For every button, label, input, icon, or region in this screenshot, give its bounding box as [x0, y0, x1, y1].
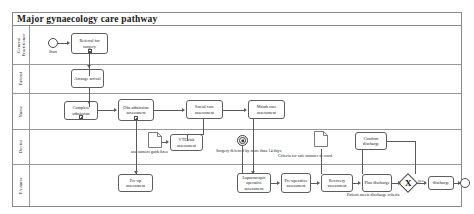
- task-label-discharge: discharge: [433, 180, 449, 185]
- lane-body-doctor: assessment guidelines VTE risk assessmen…: [30, 130, 461, 164]
- subprocess-marker-icon: [134, 116, 138, 120]
- flow-arrow-obs-to-social: [182, 108, 185, 112]
- flow-social-to-vte: [203, 119, 204, 134]
- lane-label-pa-nurse: PA nurse: [18, 177, 23, 194]
- task-label-confirm-discharge: Confirm discharge: [357, 136, 385, 146]
- annotation-surgery-deferred: Surgery deferred by more than 14 days: [216, 149, 281, 154]
- task-label-pre-op-assessment: Pre-op assessment: [120, 178, 151, 188]
- document-icon: [148, 132, 162, 148]
- task-label-social-care-assessment: Social care assessment: [188, 104, 221, 114]
- task-plan-discharge[interactable]: Plan discharge: [362, 174, 392, 192]
- flow-confirm-down: [415, 141, 416, 174]
- timer-event[interactable]: [237, 135, 248, 146]
- flow-arrow-obs-to-preop: [134, 171, 138, 174]
- flow-social-to-vte-h: [187, 134, 204, 135]
- flow-timer-down: [242, 146, 243, 174]
- lane-nurse: Nurse Complete admission Obs admission a…: [13, 94, 461, 130]
- subprocess-marker-icon: [88, 49, 92, 53]
- task-label-pre-operative-assessment: Pre-operative assessment: [283, 178, 309, 188]
- flow-arrow-recovery-to-plan: [358, 181, 361, 185]
- lane-body-patient: Arrange arrival: [30, 65, 461, 93]
- lane-header-patient: Patient: [13, 65, 30, 93]
- diagram-canvas: Major gynaecology care pathway GeneralPr…: [0, 0, 474, 214]
- lane-header-nurse: Nurse: [13, 94, 30, 129]
- lane-header-doctor: Doctor: [13, 130, 30, 164]
- document-label-criteria-safe-transfer: Criteria for safe transfer to ward: [278, 154, 332, 159]
- lane-general-practitioner: GeneralPractitioner Start Referral for s…: [13, 26, 461, 65]
- lane-label-doctor: Doctor: [18, 140, 23, 153]
- flow-start-to-referral: [58, 43, 67, 44]
- flow-arrow-plan-to-gateway: [398, 181, 401, 185]
- lane-label-general-practitioner: GeneralPractitioner: [16, 34, 27, 57]
- flow-arrow-referral-to-arrange: [87, 65, 91, 68]
- flow-arrow-start-to-referral: [67, 41, 70, 45]
- lane-pa-nurse: PA nurse Pre-op assessment Laparoscopic …: [13, 165, 461, 206]
- document-icon: [314, 131, 328, 147]
- lane-body-nurse: Complete admission Obs admission assessm…: [30, 94, 461, 129]
- lane-header-pa-nurse: PA nurse: [13, 165, 30, 206]
- process-pool: Major gynaecology care pathway GeneralPr…: [12, 12, 462, 207]
- document-assessment-guidelines[interactable]: [148, 132, 162, 148]
- task-label-mouth-care-assessment: Mouth care assessment: [250, 104, 283, 114]
- task-label-laparoscopic-operative-assessment: Laparoscopic operative assessment: [239, 175, 269, 190]
- flow-mouth-to-lap: [253, 119, 254, 174]
- subprocess-marker-icon: [79, 115, 83, 119]
- flow-obs-to-preop: [136, 121, 137, 174]
- flow-arrow-gateway-to-discharge: [424, 181, 427, 185]
- task-label-referral-for-surgery: Referral for surgery: [73, 38, 106, 48]
- task-confirm-discharge[interactable]: Confirm discharge: [355, 132, 387, 150]
- flow-arrow-arrange-to-complete: [87, 101, 91, 104]
- document-criteria-safe-transfer[interactable]: [314, 131, 328, 147]
- flow-doc-criteria-down: [321, 149, 322, 174]
- page-title: Major gynaecology care pathway: [13, 13, 461, 26]
- lane-patient: Patient Arrange arrival: [13, 65, 461, 94]
- flow-arrow-social-to-mouth: [244, 108, 247, 112]
- lane-body-general-practitioner: Start Referral for surgery: [30, 26, 461, 64]
- task-arrange-arrival[interactable]: Arrange arrival: [71, 69, 104, 88]
- flow-arrow-mouth-to-lap: [251, 171, 255, 174]
- task-label-plan-discharge: Plan discharge: [364, 180, 389, 185]
- task-pre-operative-assessment[interactable]: Pre-operative assessment: [281, 173, 311, 193]
- flow-obs-to-social: [154, 110, 182, 111]
- flow-arrange-to-complete: [89, 88, 90, 107]
- task-mouth-care-assessment[interactable]: Mouth care assessment: [248, 100, 285, 119]
- task-laparoscopic-operative-assessment[interactable]: Laparoscopic operative assessment: [237, 173, 271, 193]
- flow-social-to-mouth: [223, 110, 244, 111]
- task-label-arrange-arrival: Arrange arrival: [74, 76, 100, 81]
- lane-header-general-practitioner: GeneralPractitioner: [13, 26, 30, 64]
- flow-arrow-doc-to-vte: [166, 140, 169, 144]
- end-event[interactable]: [460, 178, 470, 188]
- lane-body-pa-nurse: Pre-op assessment Laparoscopic operative…: [30, 165, 461, 206]
- lane-label-patient: Patient: [18, 72, 23, 85]
- gateway-annotation: Patient meets discharge criteria: [347, 193, 399, 198]
- flow-arrow-lap-to-preop: [277, 181, 280, 185]
- flow-arrow-discharge-to-end: [458, 181, 461, 185]
- task-social-care-assessment[interactable]: Social care assessment: [186, 100, 223, 119]
- task-label-recovery-assessment: Recovery assessment: [323, 178, 351, 188]
- flow-vte-up: [187, 134, 188, 141]
- start-event[interactable]: [48, 38, 58, 48]
- gateway-x-icon: X: [405, 179, 412, 188]
- lane-doctor: Doctor assessment guidelines VTE risk as…: [13, 130, 461, 165]
- start-event-label: Start: [43, 50, 63, 55]
- flow-arrow-preop-to-recovery: [317, 181, 320, 185]
- task-recovery-assessment[interactable]: Recovery assessment: [321, 174, 353, 192]
- task-pre-op-assessment[interactable]: Pre-op assessment: [118, 174, 153, 192]
- flow-confirm-out: [387, 141, 415, 142]
- task-obs-admission-assessment[interactable]: Obs admission assessment: [118, 99, 154, 121]
- flow-gateway-to-discharge: [416, 183, 424, 184]
- flow-arrow-complete-to-obs: [114, 108, 117, 112]
- lane-label-nurse: Nurse: [18, 106, 23, 117]
- flow-gateway-up: [362, 149, 363, 174]
- task-label-obs-admission-assessment: Obs admission assessment: [120, 105, 152, 115]
- task-referral-for-surgery[interactable]: Referral for surgery: [71, 33, 108, 54]
- task-complete-admission[interactable]: Complete admission: [64, 101, 98, 120]
- flow-complete-to-obs: [98, 110, 114, 111]
- task-discharge[interactable]: discharge: [428, 176, 454, 190]
